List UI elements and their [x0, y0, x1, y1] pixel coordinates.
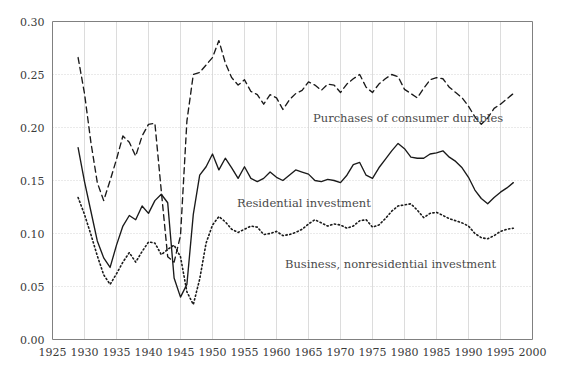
x-tick-label: 1955 — [231, 346, 259, 359]
annotation-residential-investment: Residential investment — [237, 196, 371, 210]
x-tick-label: 1945 — [167, 346, 195, 359]
x-tick-label: 1925 — [39, 346, 67, 359]
series-dashed — [78, 41, 513, 263]
series-solid — [78, 143, 513, 297]
x-axis-tick-labels: 1925193019351940194519501955196019651970… — [39, 346, 547, 359]
annotation-purchases-of-consumer-durables: Purchases of consumer durables — [313, 111, 503, 125]
x-tick-label: 1990 — [455, 346, 483, 359]
x-tick-label: 1930 — [71, 346, 99, 359]
y-tick-label: 0.00 — [20, 334, 45, 347]
x-tick-label: 1965 — [295, 346, 323, 359]
y-axis-tick-labels: 0.000.050.100.150.200.250.30 — [20, 16, 45, 347]
y-tick-label: 0.10 — [20, 228, 45, 241]
series-dotted — [78, 197, 513, 304]
annotation-business-nonresidential-investment: Business, nonresidential investment — [285, 257, 496, 271]
gridlines-horizontal — [53, 75, 533, 287]
x-tick-label: 1950 — [199, 346, 227, 359]
chart-canvas: 1925193019351940194519501955196019651970… — [0, 0, 577, 381]
x-tick-label: 1980 — [391, 346, 419, 359]
y-tick-label: 0.15 — [20, 175, 45, 188]
x-tick-label: 1940 — [135, 346, 163, 359]
x-tick-label: 1960 — [263, 346, 291, 359]
x-tick-label: 2000 — [519, 346, 547, 359]
chart-figure: 1925193019351940194519501955196019651970… — [0, 0, 577, 381]
x-tick-label: 1975 — [359, 346, 387, 359]
y-tick-label: 0.25 — [20, 69, 45, 82]
x-tick-label: 1985 — [423, 346, 451, 359]
y-tick-label: 0.05 — [20, 281, 45, 294]
y-tick-label: 0.20 — [20, 122, 45, 135]
y-tick-label: 0.30 — [20, 16, 45, 29]
x-tick-label: 1935 — [103, 346, 131, 359]
x-tick-label: 1970 — [327, 346, 355, 359]
x-tick-label: 1995 — [487, 346, 515, 359]
